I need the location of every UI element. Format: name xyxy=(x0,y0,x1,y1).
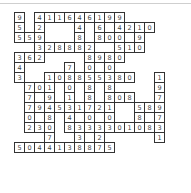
puzzle-cell[interactable]: 5 xyxy=(104,142,115,153)
puzzle-cell[interactable]: 0 xyxy=(124,72,135,83)
puzzle-cell[interactable]: 0 xyxy=(144,22,155,33)
puzzle-cell[interactable]: 0 xyxy=(114,52,125,63)
puzzle-cell[interactable]: 1 xyxy=(154,132,165,143)
puzzle-cell[interactable]: 2 xyxy=(34,52,45,63)
puzzle-cell[interactable]: 0 xyxy=(134,42,145,53)
top-divider xyxy=(0,3,191,4)
